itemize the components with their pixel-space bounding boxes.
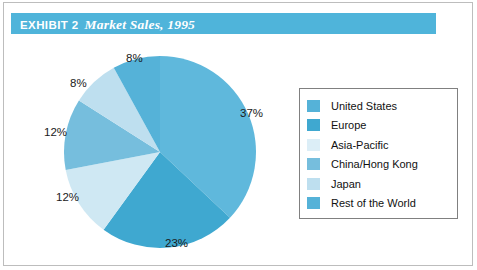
pie-slice-group bbox=[64, 56, 256, 248]
legend-item-label: Asia-Pacific bbox=[331, 139, 388, 151]
legend-swatch-icon bbox=[307, 139, 320, 151]
legend-item-label: Japan bbox=[331, 178, 361, 190]
legend-swatch-icon bbox=[307, 158, 320, 170]
legend-item-label: China/Hong Kong bbox=[331, 158, 418, 170]
legend-rows: United StatesEuropeAsia-PacificChina/Hon… bbox=[307, 96, 457, 213]
pie-value-label: 37% bbox=[240, 107, 263, 119]
pie-value-label: 8% bbox=[126, 52, 143, 64]
exhibit-label: EXHIBIT 2 bbox=[20, 19, 79, 31]
pie-value-label: 23% bbox=[165, 237, 188, 249]
legend-item-united-states[interactable]: United States bbox=[307, 96, 457, 116]
pie-value-label: 12% bbox=[56, 191, 79, 203]
legend-item-label: Rest of the World bbox=[331, 197, 416, 209]
legend-swatch-icon bbox=[307, 119, 320, 131]
legend-swatch-icon bbox=[307, 178, 320, 190]
legend-item-japan[interactable]: Japan bbox=[307, 174, 457, 194]
figure-container: EXHIBIT 2Market Sales, 1995 37%23%12%12%… bbox=[0, 0, 477, 270]
legend-item-asia-pacific[interactable]: Asia-Pacific bbox=[307, 135, 457, 155]
pie-chart bbox=[62, 54, 258, 250]
legend-item-label: Europe bbox=[331, 119, 366, 131]
chart-legend: United StatesEuropeAsia-PacificChina/Hon… bbox=[299, 88, 458, 219]
legend-item-rest-of-the-world[interactable]: Rest of the World bbox=[307, 194, 457, 214]
pie-value-label: 12% bbox=[44, 126, 67, 138]
exhibit-name: Market Sales, 1995 bbox=[85, 17, 195, 32]
exhibit-title-bar: EXHIBIT 2Market Sales, 1995 bbox=[11, 13, 436, 34]
pie-value-label: 8% bbox=[70, 77, 87, 89]
legend-item-china-hong-kong[interactable]: China/Hong Kong bbox=[307, 155, 457, 175]
legend-item-europe[interactable]: Europe bbox=[307, 116, 457, 136]
legend-swatch-icon bbox=[307, 197, 320, 209]
exhibit-title-text: EXHIBIT 2Market Sales, 1995 bbox=[11, 15, 195, 33]
chart-plot-area: 37%23%12%12%8%8% United StatesEuropeAsia… bbox=[0, 34, 477, 270]
legend-swatch-icon bbox=[307, 100, 320, 112]
legend-item-label: United States bbox=[331, 100, 397, 112]
